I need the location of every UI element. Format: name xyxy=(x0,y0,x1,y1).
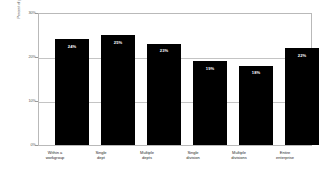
bar-within-a-workgroup[interactable] xyxy=(55,39,89,145)
x-axis-label-line-2: workgroup xyxy=(37,155,73,160)
bar-group-multiple-divisions[interactable]: 18% xyxy=(239,13,273,145)
y-tick-label-0: 0% xyxy=(16,143,36,147)
bar-group-within-a-workgroup[interactable]: 24% xyxy=(55,13,89,145)
x-axis-label-single-dept: Single dept xyxy=(83,150,119,161)
x-axis-label-multiple-divisions: Multiple divisions xyxy=(221,150,257,161)
x-axis-label-single-division: Single division xyxy=(175,150,211,161)
bar-single-dept[interactable] xyxy=(101,35,135,145)
y-tick-label-10: 10% xyxy=(16,99,36,103)
x-axis-label-entire-enterprise: Entire enterprise xyxy=(267,150,303,161)
bar-value-multiple-divisions: 18% xyxy=(239,70,273,75)
bar-group-single-division[interactable]: 19% xyxy=(193,13,227,145)
x-axis-label-multiple-depts: Multiple depts xyxy=(129,150,165,161)
bar-value-single-dept: 25% xyxy=(101,40,135,45)
bar-value-within-a-workgroup: 24% xyxy=(55,44,89,49)
bar-group-single-dept[interactable]: 25% xyxy=(101,13,135,145)
y-tick-label-30: 30% xyxy=(16,11,36,15)
y-tick-label-20: 20% xyxy=(16,55,36,59)
x-axis-label-line-2: dept xyxy=(83,155,119,160)
x-axis-label-line-2: enterprise xyxy=(267,155,303,160)
x-axis-label-line-2: division xyxy=(175,155,211,160)
bar-chart-figure: Percent of project FTE dedicated to CM 3… xyxy=(0,0,331,181)
bar-value-multiple-depts: 23% xyxy=(147,48,181,53)
bar-value-entire-enterprise: 22% xyxy=(285,53,319,58)
plot-area: 24% 25% 23% 19% 18% 22% xyxy=(38,13,312,146)
x-axis-label-within-a-workgroup: Within a workgroup xyxy=(37,150,73,161)
bar-single-division[interactable] xyxy=(193,61,227,145)
bar-multiple-divisions[interactable] xyxy=(239,66,273,145)
bar-value-single-division: 19% xyxy=(193,66,227,71)
x-axis-label-line-2: depts xyxy=(129,155,165,160)
bar-group-multiple-depts[interactable]: 23% xyxy=(147,13,181,145)
bar-entire-enterprise[interactable] xyxy=(285,48,319,145)
x-axis-label-line-2: divisions xyxy=(221,155,257,160)
bar-multiple-depts[interactable] xyxy=(147,44,181,145)
y-axis-title: Percent of project FTE dedicated to CM xyxy=(14,0,24,38)
bar-group-entire-enterprise[interactable]: 22% xyxy=(285,13,319,145)
